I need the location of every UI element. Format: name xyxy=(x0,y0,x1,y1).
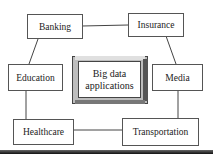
node-label: Transportation xyxy=(133,127,189,137)
node-label: Healthcare xyxy=(23,127,64,137)
node-healthcare: Healthcare xyxy=(13,119,74,145)
node-label: Insurance xyxy=(138,20,175,30)
center-node-big-data-applications: Big data applications xyxy=(72,56,148,104)
node-education: Education xyxy=(8,64,63,91)
bevel-right xyxy=(143,59,148,101)
node-label: Education xyxy=(16,73,55,83)
node-media: Media xyxy=(152,64,203,91)
node-banking: Banking xyxy=(27,14,83,39)
bevel-bottom xyxy=(75,100,145,104)
center-label-line2: applications xyxy=(85,80,133,92)
bottom-border-bar xyxy=(0,150,213,154)
center-label-line1: Big data xyxy=(93,68,127,80)
bevel-top xyxy=(75,56,145,60)
node-transportation: Transportation xyxy=(122,118,199,146)
node-insurance: Insurance xyxy=(128,13,184,37)
node-label: Media xyxy=(165,73,189,83)
node-label: Banking xyxy=(39,22,71,32)
center-face: Big data applications xyxy=(78,61,141,98)
